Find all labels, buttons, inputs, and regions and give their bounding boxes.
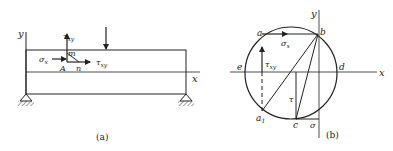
left-support [18,94,34,106]
point-m-label: m [68,49,76,58]
x-axis-label-b: x [379,67,385,78]
point-d-label: d [339,62,345,72]
point-b-label: b [320,27,326,37]
y-axis-label-b: y [310,8,317,19]
x-axis-label-a: x [192,73,198,84]
sigma-x-label-a: σx [39,55,48,65]
caption-a: (a) [96,132,108,142]
caption-b: (b) [326,130,339,140]
y-axis-label-a: y [17,28,24,39]
tau-label: τ [289,95,294,104]
sigma-label: σ [310,121,316,130]
point-n-label: n [76,64,81,73]
chord-b-c [296,34,318,119]
figure-b: x y σx τxy a b e d a1 c τ σ (b) [230,8,385,140]
sigma-x-label-b: σx [281,39,290,49]
tau-xy-horizontal-label: τxy [96,58,108,69]
point-e-label: e [237,62,242,72]
diagram-canvas: y x τxy σx τxy m A n (a) x [0,0,393,151]
point-a-label: a [257,28,262,38]
point-A-label: A [59,64,66,73]
right-support [178,94,194,106]
point-a1-label: a1 [256,113,265,124]
tau-xy-label-b: τxy [265,60,277,71]
mohrs-circle [245,27,337,119]
figure-a: y x τxy σx τxy m A n (a) [17,27,200,142]
tau-xy-vertical-label: τxy [63,32,75,43]
point-c-label: c [293,120,298,130]
